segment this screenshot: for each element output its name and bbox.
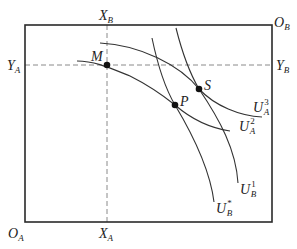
label-y-a: YA	[7, 58, 21, 75]
label-x-b: XB	[98, 8, 114, 25]
edgeworth-box-diagram: M P S OA OB XB XA YA YB U3A U2A U1B U*B	[0, 0, 297, 249]
label-ua2: U2A	[239, 116, 256, 136]
label-y-b: YB	[276, 58, 290, 75]
label-ubstar: U*B	[216, 198, 233, 218]
curve-ubstar	[152, 38, 214, 202]
label-origin-b: OB	[274, 15, 290, 32]
label-ub1: U1B	[240, 179, 257, 199]
label-origin-a: OA	[8, 226, 24, 243]
label-p: P	[179, 94, 189, 109]
label-s: S	[204, 78, 211, 93]
point-p	[172, 102, 179, 109]
label-x-a: XA	[98, 226, 114, 243]
label-ua3: U3A	[253, 97, 270, 117]
point-s	[196, 86, 203, 93]
point-m	[104, 62, 111, 69]
edgeworth-box-frame	[25, 25, 272, 222]
label-m: M	[90, 49, 104, 64]
